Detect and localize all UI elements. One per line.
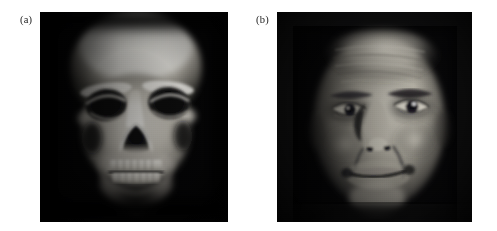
figure-root: (a)	[0, 0, 497, 231]
panel-label-b: (b)	[256, 15, 269, 26]
panel-image-face	[277, 12, 472, 222]
panel-image-skull	[40, 12, 228, 222]
panel-label-a: (a)	[20, 15, 32, 26]
